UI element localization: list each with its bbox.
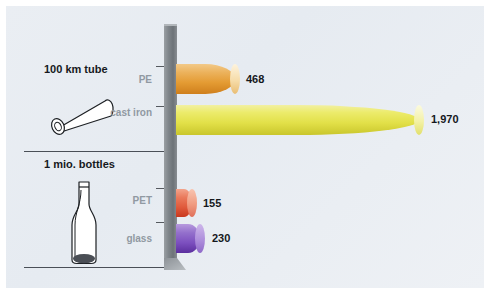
bar-cast-iron-body <box>176 105 419 135</box>
bar-pet-cap <box>187 189 197 217</box>
bottle-icon <box>55 178 115 266</box>
bar-label-pet: PET <box>88 195 152 206</box>
bar-value-cast-iron: 1,970 <box>431 113 459 125</box>
bar-pe-cap <box>230 64 240 94</box>
bar-value-pet: 155 <box>203 197 221 209</box>
bar-pe-body <box>176 64 235 94</box>
bar-label-pe: PE <box>88 74 152 85</box>
bar-cast-iron-cap <box>414 105 424 135</box>
axis-tick-glass <box>156 222 164 223</box>
bar-glass[interactable] <box>176 224 200 253</box>
bar-pe[interactable] <box>176 64 235 94</box>
axis-tick-cast-iron <box>156 106 164 107</box>
baseline-rule <box>24 267 179 268</box>
bar-label-glass: glass <box>88 233 152 244</box>
bar-pet[interactable] <box>176 189 192 217</box>
bar-glass-cap <box>195 224 205 253</box>
bar-value-glass: 230 <box>212 232 230 244</box>
bar-label-cast-iron: cast iron <box>78 107 152 118</box>
bar-value-pe: 468 <box>246 73 264 85</box>
bar-cast-iron[interactable] <box>176 105 419 135</box>
axis-tick-pe <box>156 66 164 67</box>
axis-tick-pet <box>156 188 164 189</box>
chart-root: 100 km tube PE 468 cast iron 1,970 1 mio… <box>0 0 492 296</box>
group-heading-bottles: 1 mio. bottles <box>44 158 115 170</box>
group-separator-rule <box>24 151 172 152</box>
